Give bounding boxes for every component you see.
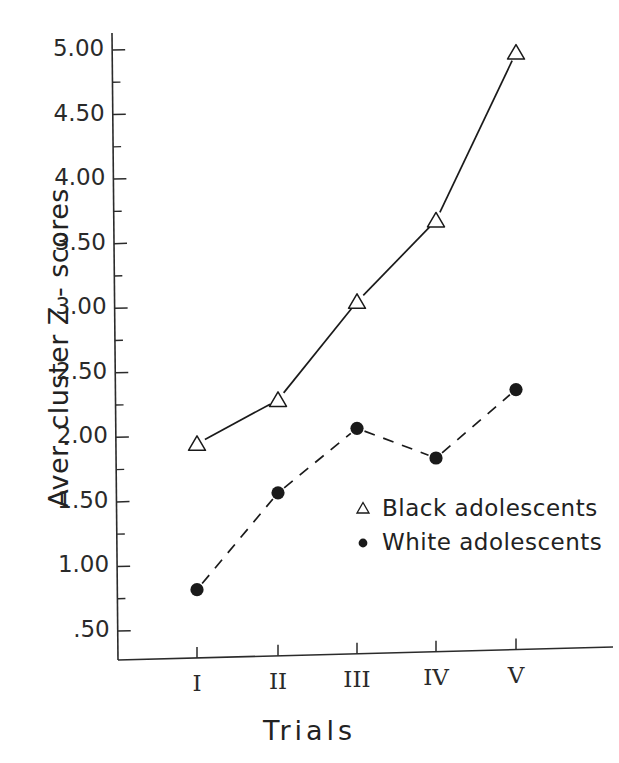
series-line-segment	[202, 499, 273, 584]
data-point-open-triangle	[270, 392, 287, 407]
data-point-filled-circle	[271, 486, 284, 499]
y-tick-label: 2.50	[30, 358, 107, 384]
y-tick-label: 5.00	[30, 35, 104, 61]
data-point-open-triangle	[508, 45, 525, 60]
data-point-filled-circle	[350, 422, 363, 435]
y-tick-label: 4.00	[30, 164, 105, 190]
y-tick-label: 1.00	[30, 551, 109, 577]
chart-legend: Black adolescents White adolescents	[352, 492, 602, 560]
y-tick-label: 1.50	[30, 487, 108, 513]
legend-label-black-adolescents: Black adolescents	[382, 495, 598, 521]
data-point-open-triangle	[189, 436, 206, 451]
x-tick-label: IV	[396, 664, 476, 690]
data-point-filled-circle	[190, 583, 203, 596]
y-tick-label: 3.00	[30, 293, 107, 319]
series-line-segment	[205, 404, 270, 439]
legend-item-black-adolescents: Black adolescents	[352, 492, 602, 524]
filled-circle-icon	[352, 531, 374, 553]
y-tick-label: .50	[30, 616, 110, 642]
x-tick-label: V	[476, 662, 556, 688]
series-line-segment	[440, 61, 512, 213]
x-tick-label: I	[157, 670, 237, 696]
y-tick-label: 4.50	[30, 100, 105, 126]
data-point-open-triangle	[349, 294, 366, 309]
legend-label-white-adolescents: White adolescents	[382, 529, 602, 555]
data-point-filled-circle	[429, 451, 442, 464]
data-point-open-triangle	[428, 212, 445, 227]
series-line-segment	[442, 395, 510, 453]
chart-figure: 5.004.504.003.503.002.502.001.501.00.50 …	[0, 0, 619, 763]
legend-item-white-adolescents: White adolescents	[352, 526, 602, 558]
x-axis-title: Trials	[0, 715, 619, 746]
x-tick-label: II	[238, 668, 318, 694]
data-point-filled-circle	[509, 383, 522, 396]
y-tick-label: 2.00	[30, 422, 108, 448]
x-tick-label: III	[317, 666, 397, 692]
x-axis-line	[118, 647, 613, 660]
series-line-segment	[363, 227, 429, 295]
open-triangle-icon	[352, 497, 374, 519]
series-line-segment	[364, 431, 428, 455]
series-line-segment	[284, 309, 352, 393]
y-tick-label: 3.50	[30, 229, 106, 255]
series-line-segment	[284, 433, 351, 487]
